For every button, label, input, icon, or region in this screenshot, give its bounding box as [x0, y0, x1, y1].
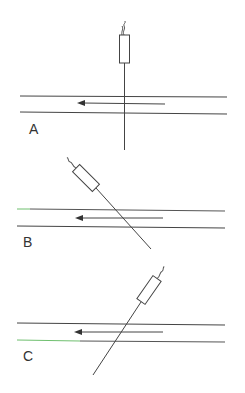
probe — [120, 21, 130, 150]
probe-needle — [93, 302, 141, 375]
vessel-wall-bottom — [17, 226, 225, 228]
panel-b: B — [17, 155, 225, 250]
probe-cable-icon — [156, 266, 165, 278]
panel-a: A — [20, 21, 227, 150]
vessel-wall-top — [17, 323, 225, 325]
vessel-wall-bottom — [20, 112, 227, 114]
probe — [137, 264, 169, 304]
probe-angle-diagram: A B C — [0, 0, 245, 393]
panel-c: C — [17, 264, 225, 375]
probe-cable-icon — [123, 21, 125, 35]
flow-arrow — [75, 215, 163, 221]
flow-arrow — [77, 100, 165, 106]
vessel-wall-bottom — [17, 340, 80, 341]
vessel-wall-top — [20, 96, 227, 97]
flow-arrow — [74, 329, 163, 335]
panel-label: C — [23, 348, 33, 364]
panel-label: B — [23, 234, 32, 250]
probe — [63, 155, 100, 192]
probe-body — [120, 35, 130, 63]
panel-label: A — [29, 121, 39, 137]
probe-body — [137, 276, 161, 305]
probe-body — [73, 165, 100, 192]
probe-cable-icon — [66, 157, 77, 168]
